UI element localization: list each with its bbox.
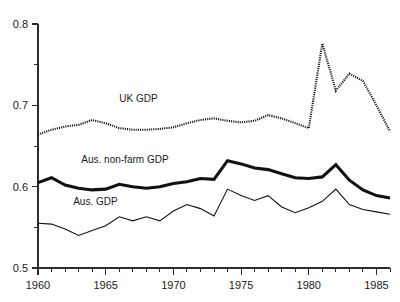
y-tick-label: 0.6 [13,181,28,193]
x-tick-label: 1975 [229,279,253,291]
x-tick-label: 1970 [161,279,185,291]
x-tick-label: 1985 [364,279,388,291]
y-tick-label: 0.7 [13,99,28,111]
series-label-aus-gdp: Aus. GDP [73,196,118,207]
series-line-aus-non-farm-gdp [38,161,390,198]
x-tick-label: 1965 [93,279,117,291]
y-tick-label: 0.8 [13,18,28,30]
series-label-uk-gdp: UK GDP [119,93,158,104]
series-label-aus-non-farm-gdp: Aus. non-farm GDP [81,154,169,165]
tick-marks-layer [32,24,390,275]
series-layer [38,44,390,236]
tick-labels-layer: 0.50.60.70.8196019651970197519801985 [13,18,389,291]
chart-container: 0.50.60.70.8196019651970197519801985 UK … [0,0,400,302]
line-chart: 0.50.60.70.8196019651970197519801985 UK … [0,0,400,302]
x-tick-label: 1980 [297,279,321,291]
series-line-uk-gdp [38,44,390,135]
x-tick-label: 1960 [26,279,50,291]
y-tick-label: 0.5 [13,262,28,274]
